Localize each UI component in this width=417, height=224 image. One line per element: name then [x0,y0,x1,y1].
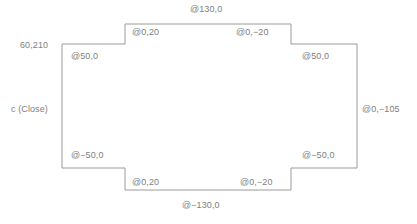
top-segment-label: @130,0 [190,4,222,15]
right-lower-segment-label: @−50,0 [302,150,335,161]
polyline-outline-drawing [0,0,417,224]
bottom-right-riser-label: @0,−20 [240,177,273,188]
bottom-segment-label: @−130,0 [182,200,220,211]
stepped-rectangle-shape [62,24,357,190]
left-upper-segment-label: @50,0 [71,51,98,62]
top-right-riser-label: @0,−20 [236,27,269,38]
start-point-label: 60,210 [20,40,48,51]
top-left-riser-label: @0,20 [132,27,159,38]
bottom-left-riser-label: @0,20 [132,177,159,188]
left-lower-segment-label: @−50,0 [71,150,104,161]
close-command-label: c (Close) [11,104,48,115]
right-upper-segment-label: @50,0 [302,51,329,62]
right-middle-segment-label: @0,−105 [362,104,400,115]
